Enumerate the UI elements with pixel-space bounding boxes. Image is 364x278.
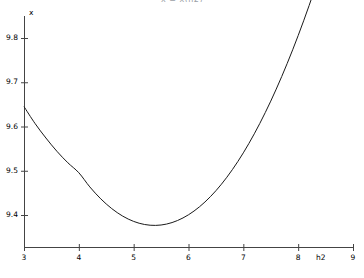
chart-figure: x = x(h2) x h2 9.49.59.69.79.8 3456789 <box>0 0 364 278</box>
chart-plot-area <box>0 0 364 278</box>
axis-lines <box>24 16 354 248</box>
data-curve <box>24 0 353 225</box>
